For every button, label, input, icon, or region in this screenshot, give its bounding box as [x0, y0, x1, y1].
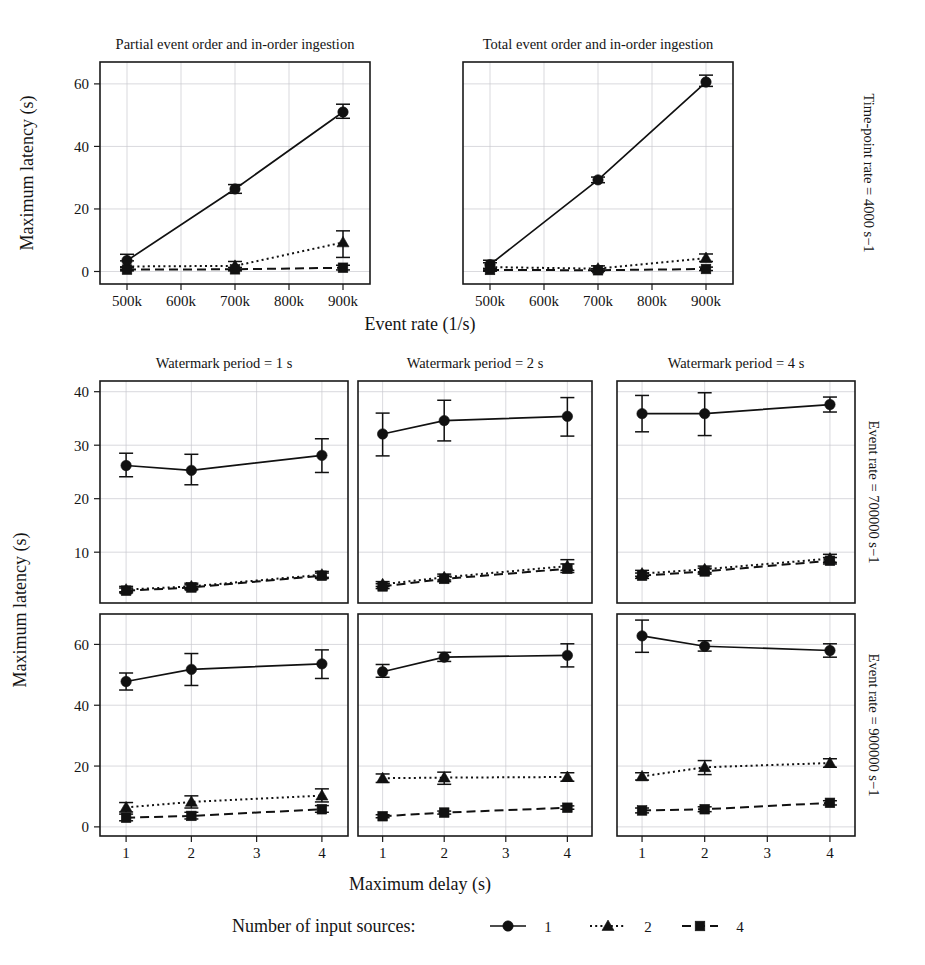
y-axis-title-top: Maximum latency (s): [17, 96, 38, 251]
gridlines: [100, 381, 348, 603]
x-tick-label: 600k: [166, 293, 197, 309]
panel-title: Total event order and in-order ingestion: [483, 36, 714, 52]
legend-label: 4: [736, 919, 744, 935]
y-tick-label: 10: [74, 545, 89, 561]
marker-square: [701, 264, 711, 274]
x-tick-label: 800k: [637, 293, 668, 309]
series-line: [383, 566, 568, 584]
y-tick-label: 20: [74, 201, 89, 217]
legend-label: 2: [644, 919, 652, 935]
legend-title: Number of input sources:: [232, 916, 415, 936]
series-line: [383, 655, 568, 671]
legend-entry-2[interactable]: 2: [590, 919, 652, 935]
marker-square: [485, 265, 495, 275]
gridlines: [100, 614, 348, 836]
marker-circle: [699, 641, 709, 651]
marker-square: [700, 567, 710, 577]
x-tick-label: 4: [826, 845, 834, 861]
y-tick-label: 0: [82, 819, 90, 835]
marker-circle: [637, 408, 647, 418]
bottom-x-axis-title: Maximum delay (s): [349, 874, 491, 895]
marker-square: [637, 806, 647, 816]
y-tick-label: 20: [74, 491, 89, 507]
y-tick-label: 20: [74, 759, 89, 775]
marker-circle: [593, 175, 603, 185]
marker-circle: [377, 667, 387, 677]
strip-label-top: Time-point rate = 4000 s−1: [861, 93, 877, 252]
strip-label-middle: Event rate = 700000 s−1: [866, 421, 882, 564]
series-line: [642, 561, 830, 576]
panel-mid-wm4: Watermark period = 4 s: [617, 355, 855, 603]
series-line: [126, 664, 322, 682]
series-1-circle: [635, 393, 837, 436]
x-tick-label: 1: [379, 845, 387, 861]
series-line: [126, 455, 322, 470]
marker-circle: [317, 450, 327, 460]
y-tick-label: 40: [74, 384, 89, 400]
marker-square: [121, 586, 131, 596]
y-tick-label: 40: [74, 139, 89, 155]
marker-square: [439, 808, 449, 818]
marker-circle: [637, 631, 647, 641]
gridlines: [358, 614, 592, 836]
series-1-circle: [119, 439, 329, 485]
marker-square: [563, 564, 573, 574]
marker-triangle: [185, 796, 197, 806]
series-1-circle: [376, 398, 575, 456]
x-tick-label: 500k: [112, 293, 143, 309]
marker-circle: [825, 399, 835, 409]
x-tick-label: 2: [440, 845, 448, 861]
series-line: [642, 559, 830, 574]
series-2-triangle: [119, 789, 329, 812]
series-line: [642, 636, 830, 651]
strip-label-bottom: Event rate = 900000 s−1: [866, 654, 882, 797]
panel-border: [100, 614, 348, 836]
x-tick-label: 4: [564, 845, 572, 861]
series-4-square: [483, 264, 713, 275]
panel-title: Watermark period = 2 s: [407, 355, 544, 371]
series-line: [383, 808, 568, 817]
x-tick-label: 3: [253, 845, 261, 861]
series-line: [383, 569, 568, 587]
marker-circle: [825, 645, 835, 655]
marker-circle: [701, 77, 711, 87]
marker-square: [122, 265, 132, 275]
marker-circle: [562, 650, 572, 660]
panel-border: [358, 614, 592, 836]
marker-circle: [317, 659, 327, 669]
y-tick-label: 60: [74, 76, 89, 92]
panel-title: Partial event order and in-order ingesti…: [116, 36, 356, 52]
marker-square: [187, 811, 197, 821]
series-line: [126, 575, 322, 590]
panel-title: Watermark period = 4 s: [668, 355, 805, 371]
marker-circle: [186, 465, 196, 475]
series-line: [642, 405, 830, 414]
marker-triangle: [699, 761, 711, 771]
marker-circle: [377, 429, 387, 439]
x-tick-label: 4: [318, 845, 326, 861]
legend-entry-1[interactable]: 1: [490, 919, 552, 935]
series-line: [642, 803, 830, 811]
series-line: [126, 809, 322, 818]
x-tick-label: 500k: [475, 293, 506, 309]
series-1-circle: [119, 650, 329, 690]
figure-canvas: Partial event order and in-order ingesti…: [0, 0, 925, 965]
panel-top-right: Total event order and in-order ingestion…: [463, 36, 733, 309]
panel-bot-wm1: 12340204060: [74, 614, 348, 861]
panel-bot-wm4: 1234: [617, 614, 855, 861]
x-tick-label: 700k: [220, 293, 251, 309]
trellis-figure: Partial event order and in-order ingesti…: [0, 0, 925, 965]
series-1-circle: [635, 620, 837, 657]
panel-mid-wm2: Watermark period = 2 s: [358, 355, 592, 603]
legend-entry-4[interactable]: 4: [682, 919, 744, 935]
marker-square: [187, 583, 197, 593]
x-tick-label: 600k: [529, 293, 560, 309]
top-x-axis-title: Event rate (1/s): [365, 314, 476, 335]
panel-title: Watermark period = 1 s: [156, 355, 293, 371]
x-tick-label: 3: [502, 845, 510, 861]
marker-square: [317, 571, 327, 581]
marker-circle: [562, 411, 572, 421]
series-2-triangle: [635, 553, 837, 578]
marker-square: [563, 803, 573, 813]
marker-square: [700, 804, 710, 814]
